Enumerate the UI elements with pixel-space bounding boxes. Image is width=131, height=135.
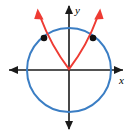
intersection-point-left [41,35,48,42]
parabola-right-arrowhead-icon [94,9,103,20]
parabola-left-arrowhead-icon [34,9,43,20]
y-axis-label: y [74,4,80,16]
x-axis-label: x [118,74,124,86]
y-axis-down-arrowhead-icon [65,121,73,130]
math-figure: y x [0,0,131,135]
intersection-point-right [90,35,97,42]
x-axis-right-arrowhead-icon [114,66,123,74]
graph-canvas: y x [0,0,131,135]
y-axis-up-arrowhead-icon [65,5,73,14]
x-axis-left-arrowhead-icon [9,66,18,74]
